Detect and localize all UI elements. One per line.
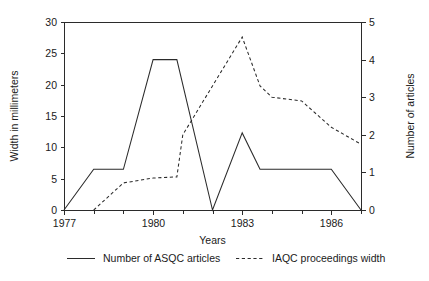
chart-container: 0510152025300123451977198019831986YearsW… xyxy=(0,0,429,281)
y2-axis-tick-label: 0 xyxy=(369,204,375,216)
plot-frame xyxy=(65,23,362,211)
y2-axis-tick-label: 4 xyxy=(369,54,375,66)
line-chart: 0510152025300123451977198019831986YearsW… xyxy=(0,0,429,281)
series-line-2 xyxy=(94,37,361,210)
y2-axis-tick-label: 2 xyxy=(369,129,375,141)
x-axis-tick-label: 1983 xyxy=(231,217,255,229)
x-axis-tick-label: 1977 xyxy=(53,217,77,229)
y-axis-tick-label: 20 xyxy=(45,79,57,91)
y-axis-tick-label: 30 xyxy=(45,16,57,28)
y-axis-tick-label: 10 xyxy=(45,141,57,153)
legend-label-1: Number of ASQC articles xyxy=(103,252,220,264)
x-axis-tick-label: 1980 xyxy=(142,217,166,229)
x-axis-title: Years xyxy=(199,234,225,246)
series-line-1 xyxy=(64,60,361,210)
y-axis-title: Width in millimeters xyxy=(8,70,20,161)
y-axis-tick-label: 0 xyxy=(51,204,57,216)
y2-axis-tick-label: 3 xyxy=(369,91,375,103)
y-axis-tick-label: 5 xyxy=(51,173,57,185)
x-axis-tick-label: 1986 xyxy=(320,217,344,229)
y2-axis-title: Number of articles xyxy=(404,73,416,158)
legend-label-2: IAQC proceedings width xyxy=(272,252,385,264)
y-axis-tick-label: 25 xyxy=(45,47,57,59)
y2-axis-tick-label: 5 xyxy=(369,16,375,28)
y2-axis-tick-label: 1 xyxy=(369,166,375,178)
y-axis-tick-label: 15 xyxy=(45,110,57,122)
